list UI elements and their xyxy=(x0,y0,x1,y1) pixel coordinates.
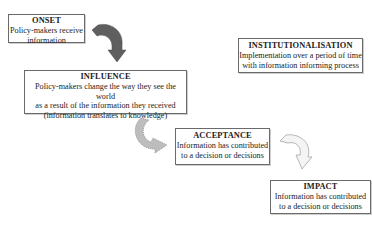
stage-desc-line: Implementation over a period of time xyxy=(239,51,362,61)
stage-desc-line: as a result of the information they rece… xyxy=(25,101,186,111)
stage-title: ACCEPTANCE xyxy=(176,131,269,141)
stage-title: INFLUENCE xyxy=(25,72,186,82)
stage-title: INSTITUTIONALISATION xyxy=(239,41,362,51)
stage-acceptance: ACCEPTANCE Information has contributed t… xyxy=(175,128,270,165)
curved-arrow-icon xyxy=(278,133,314,171)
stage-title: IMPACT xyxy=(271,182,370,192)
stage-influence: INFLUENCE Policy-makers change the way t… xyxy=(24,70,187,114)
stage-desc-line: Policy-makers change the way they see th… xyxy=(25,82,186,101)
curved-arrow-icon xyxy=(88,24,128,64)
curved-arrow-icon xyxy=(131,116,169,154)
stage-desc-line: with information informing process xyxy=(239,61,362,71)
stage-desc-line: Information has contributed xyxy=(176,141,269,151)
stage-onset: ONSET Policy-makers receive information xyxy=(8,14,85,43)
stage-institutionalisation: INSTITUTIONALISATION Implementation over… xyxy=(238,38,363,73)
stage-desc-line: information xyxy=(9,36,84,46)
stage-desc-line: Policy-makers receive xyxy=(9,26,84,36)
stage-desc-line: Information has contributed xyxy=(271,192,370,202)
stage-desc-line: to a decision or decisions xyxy=(271,202,370,212)
stage-desc-line: to a decision or decisions xyxy=(176,151,269,161)
stage-title: ONSET xyxy=(9,16,84,26)
stage-impact: IMPACT Information has contributed to a … xyxy=(270,180,371,214)
